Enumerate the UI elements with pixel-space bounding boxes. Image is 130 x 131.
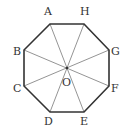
label-c: C [13, 82, 21, 95]
label-b: B [13, 45, 21, 58]
label-o: O [62, 76, 71, 89]
label-f: F [111, 82, 119, 95]
center-point [66, 67, 69, 70]
octagon-diagram: AHGFEDCBO [0, 0, 130, 131]
label-h: H [80, 5, 90, 18]
label-e: E [80, 115, 88, 128]
label-a: A [43, 5, 53, 18]
label-d: D [44, 115, 53, 128]
label-g: G [111, 45, 120, 58]
